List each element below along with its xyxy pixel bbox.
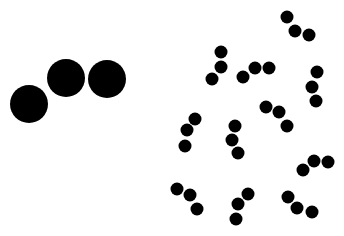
dot-cluster (237, 62, 276, 84)
small-dot (291, 202, 304, 215)
dot-pattern (0, 0, 344, 236)
small-dot (303, 29, 316, 42)
small-dot (232, 147, 245, 160)
small-dot (171, 183, 184, 196)
dot-cluster (260, 101, 294, 133)
dot-cluster (206, 46, 228, 86)
small-dot (206, 73, 219, 86)
large-dot (88, 60, 126, 98)
small-dot (306, 206, 319, 219)
small-dot (179, 140, 192, 153)
small-dot (249, 62, 262, 75)
small-dot (282, 191, 295, 204)
small-dot (215, 46, 228, 59)
small-dot (308, 155, 321, 168)
small-dot (184, 189, 197, 202)
small-dot (306, 81, 319, 94)
small-dot (260, 101, 273, 114)
small-dot (297, 164, 310, 177)
small-dot (322, 156, 335, 169)
small-dot (181, 124, 194, 137)
dot-cluster (282, 191, 319, 219)
dot-cluster (306, 66, 324, 108)
dot-cluster (230, 188, 255, 226)
large-dot-group (10, 59, 126, 123)
large-dot (10, 85, 48, 123)
dot-cluster (297, 155, 335, 177)
small-dot (189, 113, 202, 126)
dot-cluster (226, 120, 245, 160)
dot-cluster (179, 113, 202, 153)
dot-cluster (171, 183, 204, 216)
small-dot (263, 62, 276, 75)
small-dot (310, 95, 323, 108)
small-dot (281, 120, 294, 133)
small-dot (191, 203, 204, 216)
large-dot (47, 59, 85, 97)
small-dot (229, 120, 242, 133)
small-dot (226, 134, 239, 147)
small-dot (230, 213, 243, 226)
small-dot (289, 25, 302, 38)
small-dot (232, 198, 245, 211)
small-dot-clusters (171, 11, 335, 226)
small-dot (281, 11, 294, 24)
small-dot (273, 106, 286, 119)
small-dot (242, 188, 255, 201)
small-dot (215, 61, 228, 74)
small-dot (237, 71, 250, 84)
small-dot (311, 66, 324, 79)
dot-cluster (281, 11, 316, 42)
